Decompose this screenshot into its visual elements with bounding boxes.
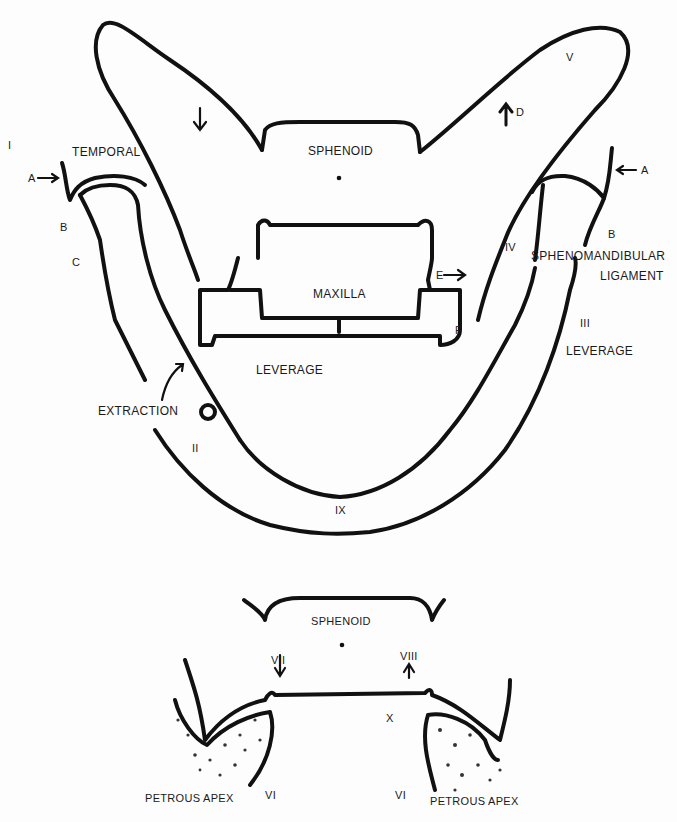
sphenoid-right-wing [420, 28, 628, 320]
label-leverage-center: LEVERAGE [256, 364, 323, 376]
label-roman-II: II [192, 443, 199, 454]
arrow-a-left-icon [38, 174, 58, 182]
condyle-right-outer [585, 198, 604, 245]
arrow-e-icon [444, 270, 465, 280]
sphenoid-body-lower [185, 660, 510, 740]
arrow-leverage-icon [162, 364, 183, 400]
label-roman-X: X [386, 713, 394, 724]
label-sphenoid-top: SPHENOID [308, 145, 373, 157]
label-sphenomandibular: SPHENOMANDIBULAR [531, 250, 665, 262]
arrow-down-icon [194, 108, 206, 130]
label-A-right: A [641, 165, 649, 176]
arrow-up-d-icon [500, 104, 512, 125]
label-roman-IX: IX [335, 505, 346, 516]
petrous-left [175, 700, 272, 785]
mandible-inner [240, 268, 535, 497]
condyle-left-outer [80, 185, 240, 440]
label-B-left: B [60, 222, 68, 233]
label-roman-VI-right: VI [395, 790, 406, 801]
label-roman-I: I [8, 140, 11, 151]
label-roman-III: III [580, 318, 590, 329]
petrous-right [425, 714, 498, 790]
sphenoid-lower-dot [340, 643, 345, 648]
sphenoid-dot [337, 176, 342, 181]
label-E: E [436, 270, 444, 281]
petrous-stipple-right [438, 728, 502, 792]
condyle-left-inner [80, 195, 145, 380]
label-roman-VII: VII [271, 655, 285, 666]
arrow-a-right-icon [617, 166, 636, 174]
label-B-right: B [608, 229, 616, 240]
label-maxilla: MAXILLA [313, 288, 366, 300]
label-roman-IV: IV [505, 242, 516, 253]
label-roman-V: V [566, 52, 574, 63]
maxilla-outline [200, 220, 460, 345]
label-petrous-apex-left: PETROUS APEX [145, 793, 234, 804]
label-D: D [516, 107, 524, 118]
label-ligament: LIGAMENT [600, 270, 664, 282]
label-leverage-right: LEVERAGE [566, 345, 633, 357]
diagram-canvas: I TEMPORAL SPHENOID V D A B C A B IV SPH… [0, 0, 677, 822]
arrow-viii-icon [404, 664, 414, 678]
label-sphenoid-bottom: SPHENOID [311, 616, 371, 627]
label-F: F [455, 325, 462, 336]
label-roman-VIII: VIII [400, 651, 418, 662]
label-temporal: TEMPORAL [72, 146, 140, 158]
label-C-left: C [72, 257, 80, 268]
label-petrous-apex-right: PETROUS APEX [430, 796, 519, 807]
extraction-socket [201, 405, 215, 419]
label-A-left: A [28, 173, 36, 184]
label-roman-VI-left: VI [265, 790, 276, 801]
label-extraction: EXTRACTION [98, 405, 178, 417]
